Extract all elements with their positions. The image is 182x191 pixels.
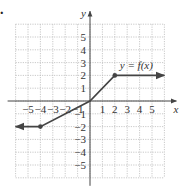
x-tick-label: 3 xyxy=(124,103,130,115)
x-tick-label: 5 xyxy=(149,103,155,115)
y-tick-label: −4 xyxy=(74,146,86,158)
x-tick-label: −4 xyxy=(35,103,47,115)
x-tick-label: 4 xyxy=(137,103,143,115)
closed-point xyxy=(113,73,118,78)
y-tick-label: 2 xyxy=(81,69,87,81)
y-tick-label: 1 xyxy=(81,82,87,94)
function-graph: xy−5−4−3−2−11234554321−1−2−3−4−5y = f(x) xyxy=(0,0,182,191)
x-tick-label: −5 xyxy=(22,103,34,115)
y-tick-label: −5 xyxy=(74,159,86,171)
y-tick-label: −3 xyxy=(74,133,86,145)
y-tick-label: −2 xyxy=(74,121,86,133)
y-axis-label: y xyxy=(80,7,86,19)
y-tick-label: 3 xyxy=(81,57,87,69)
x-tick-label: 2 xyxy=(112,103,118,115)
closed-point xyxy=(38,124,43,129)
y-tick-label: 4 xyxy=(81,44,87,56)
x-tick-label: 1 xyxy=(100,103,106,115)
x-tick-label: −3 xyxy=(47,103,59,115)
x-axis-label: x xyxy=(172,103,178,115)
y-tick-label: 5 xyxy=(81,31,87,43)
function-label: y = f(x) xyxy=(119,59,153,72)
y-tick-label: −1 xyxy=(74,108,86,120)
